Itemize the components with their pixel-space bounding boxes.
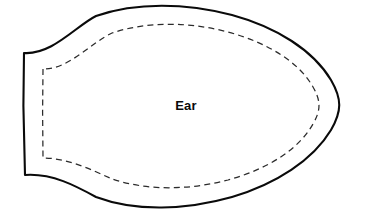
pattern-stage: Ear [0, 0, 365, 220]
pattern-piece-label: Ear [175, 98, 197, 113]
ear-pattern-diagram: Ear [0, 0, 365, 220]
